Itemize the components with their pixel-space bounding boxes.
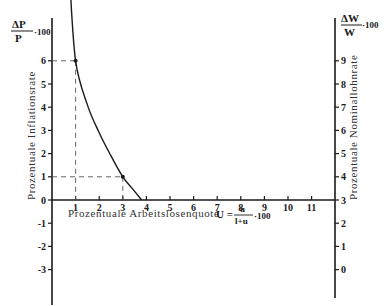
svg-text:W: W — [344, 26, 355, 38]
svg-text:·100: ·100 — [362, 20, 379, 30]
x-axis-label: Prozentuale Arbeitslosenquote — [68, 207, 220, 219]
svg-text:l+u: l+u — [235, 216, 248, 226]
left-axis-header: ΔP P ·100 — [11, 18, 51, 44]
x-tick-label: 10 — [283, 202, 293, 213]
svg-text:u: u — [240, 204, 245, 214]
left-tick-label: 1 — [41, 171, 46, 182]
left-tick-label: 2 — [41, 148, 46, 159]
data-point — [121, 175, 125, 179]
svg-text:U =: U = — [216, 208, 233, 220]
right-axis-label: Prozentuale Nominallohnrate — [347, 55, 359, 200]
right-tick-label: 3 — [341, 195, 346, 206]
svg-text:ΔW: ΔW — [341, 12, 359, 24]
svg-text:·100: ·100 — [34, 27, 51, 37]
left-tick-label: 4 — [41, 102, 46, 113]
left-tick-label: -1 — [38, 218, 46, 229]
right-axis-ticks: 9876543210 — [335, 55, 346, 275]
right-tick-label: 6 — [341, 125, 346, 136]
x-tick-label: 11 — [307, 202, 316, 213]
right-tick-label: 8 — [341, 79, 346, 90]
right-tick-label: 2 — [341, 218, 346, 229]
left-tick-label: 5 — [41, 79, 46, 90]
phillips-curve-chart: 6543210-1-2-3 9876543210 1234567891011 Δ… — [0, 0, 391, 306]
reference-lines — [52, 61, 123, 200]
right-tick-label: 1 — [341, 241, 346, 252]
right-tick-label: 7 — [341, 102, 346, 113]
svg-text:P: P — [15, 32, 22, 44]
left-axis-label: Prozentuale Inflationsrate — [25, 71, 37, 200]
left-tick-label: -2 — [38, 241, 46, 252]
right-axis-header: ΔW W ·100 — [341, 12, 379, 38]
data-point — [74, 59, 78, 63]
svg-text:·100: ·100 — [254, 211, 271, 221]
left-tick-label: 0 — [41, 195, 46, 206]
phillips-curve-line — [70, 0, 142, 200]
right-tick-label: 4 — [341, 171, 346, 182]
left-tick-label: -3 — [38, 264, 46, 275]
left-tick-label: 3 — [41, 125, 46, 136]
right-tick-label: 0 — [341, 264, 346, 275]
right-tick-label: 5 — [341, 148, 346, 159]
svg-text:ΔP: ΔP — [12, 18, 26, 30]
left-axis-ticks: 6543210-1-2-3 — [38, 55, 52, 275]
right-tick-label: 9 — [341, 55, 346, 66]
left-tick-label: 6 — [41, 55, 46, 66]
highlighted-points — [74, 59, 125, 179]
